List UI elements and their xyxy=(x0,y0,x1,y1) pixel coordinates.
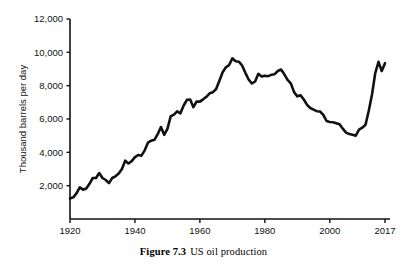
figure-caption: Figure 7.3US oil production xyxy=(0,246,407,257)
x-axis-tick-label: 1920 xyxy=(59,225,80,236)
x-axis-tick-label: 2000 xyxy=(319,225,340,236)
y-axis-tick-label: 8,000 xyxy=(39,80,63,91)
us-oil-production-line-chart: 2,0004,0006,0008,00010,00012,000 1920194… xyxy=(0,0,407,248)
x-axis-tick-label: 2017 xyxy=(374,225,395,236)
y-axis-tick-label: 6,000 xyxy=(39,113,63,124)
figure-container: 2,0004,0006,0008,00010,00012,000 1920194… xyxy=(0,0,407,268)
figure-caption-number: Figure 7.3 xyxy=(140,246,186,257)
y-axis-title: Thousand barrels per day xyxy=(17,65,28,174)
y-axis-tick-label: 4,000 xyxy=(39,147,63,158)
x-axis-tick-label: 1960 xyxy=(189,225,210,236)
x-axis-tick-label: 1980 xyxy=(254,225,275,236)
y-axis-tick-label: 2,000 xyxy=(39,180,63,191)
figure-caption-text: US oil production xyxy=(190,246,267,257)
y-axis-tick-label: 12,000 xyxy=(34,13,63,24)
y-axis-tick-label: 10,000 xyxy=(34,47,63,58)
x-axis-tick-label: 1940 xyxy=(124,225,145,236)
